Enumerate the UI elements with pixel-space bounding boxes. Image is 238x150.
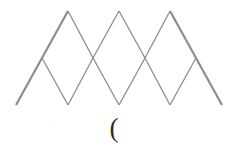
line-row2-up-a	[68, 58, 93, 105]
line-row2-up-b	[119, 58, 145, 105]
line-row2-down-c	[145, 58, 170, 105]
line-row1-down-b	[119, 11, 145, 58]
line-left-outline-lower	[16, 58, 42, 105]
line-row1-down-a	[68, 11, 93, 58]
line-row1-up-b	[145, 11, 170, 58]
figure-canvas: .. (	[0, 0, 238, 150]
line-left-outline-upper	[42, 11, 68, 58]
line-right-outline-lower	[196, 58, 222, 105]
caption-parenthesis: (	[104, 113, 124, 145]
line-row2-down-b	[93, 58, 119, 105]
faint-artifact-text: ..	[38, 116, 64, 128]
line-row1-up-a	[93, 11, 119, 58]
line-row2-up-c	[170, 58, 196, 105]
lattice-inner-lines	[0, 0, 196, 105]
line-row2-down-a	[42, 58, 68, 105]
line-right-outline-upper	[170, 11, 196, 58]
